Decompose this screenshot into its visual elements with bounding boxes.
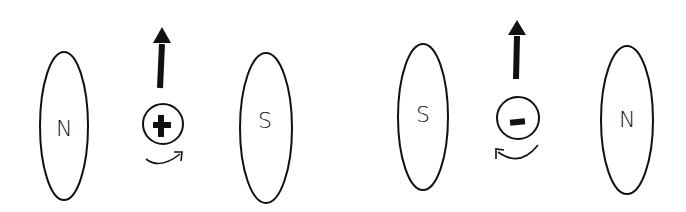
negative-charge-icon	[497, 97, 539, 139]
magnet-label: S	[416, 102, 430, 127]
counterclockwise-rotation-icon	[496, 145, 538, 159]
panel-2: S N	[398, 20, 653, 194]
magnetic-force-diagram: N S S N	[0, 0, 686, 212]
force-arrow-up-icon	[153, 27, 171, 88]
magnet-label: N	[619, 107, 635, 132]
positive-charge-icon	[143, 104, 183, 144]
clockwise-rotation-icon	[146, 152, 182, 163]
panel-1: N S	[40, 27, 292, 203]
force-arrow-up-icon	[508, 20, 526, 79]
magnet-label: S	[258, 108, 272, 133]
magnet-label: N	[56, 116, 72, 141]
